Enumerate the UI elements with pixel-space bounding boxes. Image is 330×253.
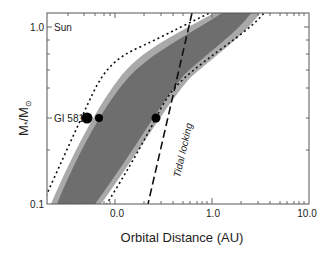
habitable-zone-chart: 1.0 0.1 0.0 1.0 10.0 Sun GI 581 Tidal lo… — [0, 0, 330, 253]
svg-text:M*/M⊙: M*/M⊙ — [16, 100, 33, 136]
y-tick-label-1: 1.0 — [30, 22, 44, 33]
gl581-planet-c-point — [95, 114, 103, 122]
gl581-planet-d-point — [152, 114, 161, 123]
gl581-label: GI 581 — [54, 113, 84, 124]
x-tick-label-0: 0.0 — [110, 208, 124, 219]
y-axis-title: M*/M⊙ — [16, 100, 33, 136]
tidal-locking-label: Tidal locking — [171, 121, 194, 178]
x-tick-label-10: 10.0 — [297, 208, 317, 219]
plot-area — [46, 12, 264, 205]
sun-label: Sun — [54, 22, 72, 33]
x-tick-label-1: 1.0 — [206, 208, 220, 219]
x-axis-title: Orbital Distance (AU) — [121, 230, 244, 245]
y-tick-label-0-1: 0.1 — [30, 199, 44, 210]
